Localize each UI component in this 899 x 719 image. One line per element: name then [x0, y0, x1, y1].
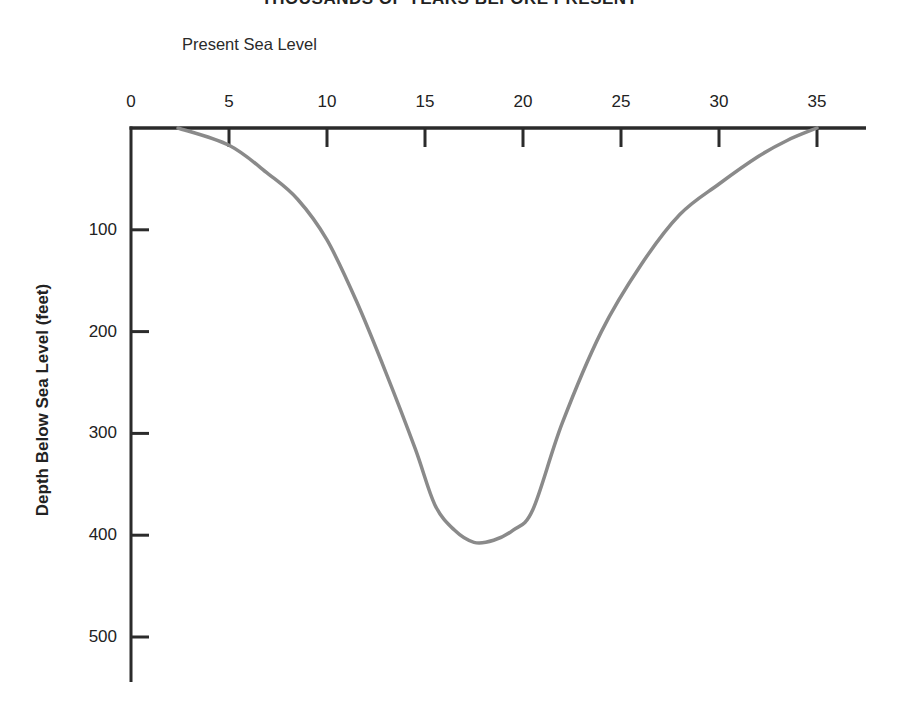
plot-area [0, 0, 899, 719]
sea-level-curve [178, 128, 817, 543]
axes [130, 127, 867, 683]
